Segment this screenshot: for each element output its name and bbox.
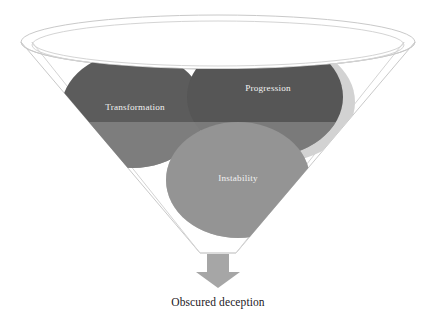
diagram-canvas: TransformationProgressionInstability Obs… [0, 0, 435, 320]
funnel-rim-inner [32, 21, 404, 69]
funnel-diagram: TransformationProgressionInstability Obs… [0, 0, 435, 320]
label-instability: Instability [218, 173, 258, 183]
label-progression: Progression [245, 83, 291, 93]
output-arrow [196, 254, 240, 288]
output-caption: Obscured deception [171, 296, 265, 309]
label-transformation: Transformation [105, 102, 165, 112]
